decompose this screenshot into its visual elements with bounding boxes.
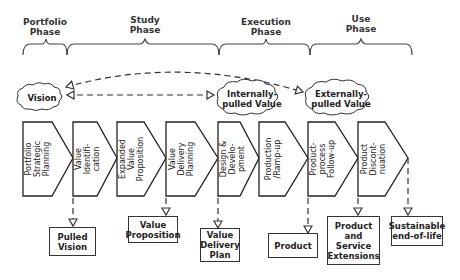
- step-label-value-delivery-planning: Value Delivery Planning: [168, 126, 195, 192]
- output-product: Product: [268, 233, 318, 258]
- phase-label-execution: Execution Phase: [238, 17, 294, 37]
- bracket-execution: [219, 39, 310, 55]
- bracket-portfolio: [23, 39, 67, 55]
- step-label-design-development: Design & Develo- pment: [219, 126, 246, 192]
- output-sustainable-end-of-life: Sustainable end-of-life: [391, 216, 443, 246]
- phase-label-use: Use Phase: [336, 14, 386, 34]
- step-label-product-discontinuation: Product Discont- nuation: [360, 126, 387, 192]
- step-label-expanded-value-proposition: Expanded Value Proposition: [118, 126, 145, 192]
- step-label-value-identification: Value Identifi- cation: [74, 126, 101, 192]
- output-product-service-extensions: Product and Service Extensions: [327, 216, 380, 265]
- step-label-production-ramp-up: Production /Ramp-up: [264, 126, 282, 192]
- phase-label-portfolio: Portfolio Phase: [20, 17, 70, 37]
- output-value-proposition: Value Proposition: [128, 216, 178, 243]
- bracket-study: [67, 39, 219, 55]
- step-label-portfolio-strategic-planning: Portfolio Strategic Planning: [24, 126, 51, 192]
- bracket-use: [310, 39, 412, 55]
- step-label-product-process-follow-up: Product- process Follow-up: [309, 126, 336, 192]
- output-value-delivery-plan: Value Delivery Plan: [200, 228, 240, 262]
- phase-brackets: [23, 39, 412, 55]
- cloud-label-internally-pulled: Internally- pulled Value: [218, 89, 286, 109]
- cloud-label-externally-pulled: Externally- pulled Value: [306, 89, 376, 109]
- output-pulled-vision: Pulled Vision: [49, 227, 96, 256]
- cloud-label-vision: Vision: [18, 93, 66, 103]
- phase-label-study: Study Phase: [120, 15, 170, 35]
